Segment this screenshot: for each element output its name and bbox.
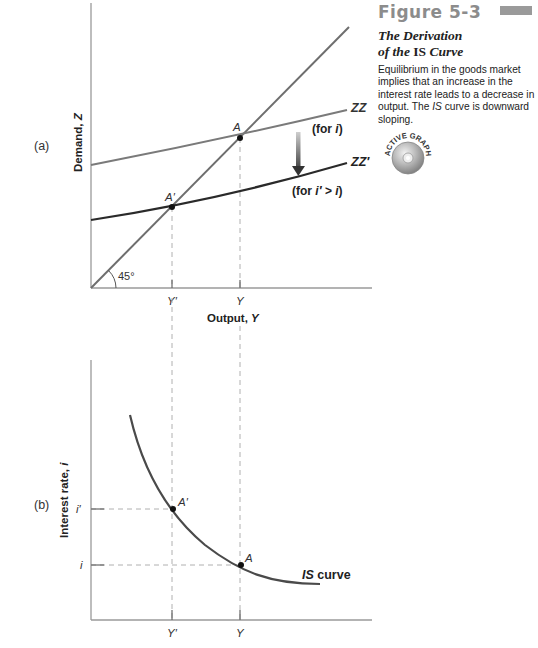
point-a-prime [169,204,175,210]
panel-a-label: (a) [34,139,49,153]
y-tick-iprime: i′ [76,503,82,515]
point-a-b-label: A [244,552,253,564]
figure-tab-decoration [500,6,532,15]
zz-curve [91,110,347,165]
x-tick-yprime-b: Y′ [167,627,178,639]
panel-a: 45° A A′ ZZ ZZ′ (for i) (for i′ > i) (a)… [34,3,372,324]
is-curve [130,415,320,584]
point-a-prime-label: A′ [164,191,176,203]
caption-em: IS [432,101,442,112]
point-a-prime-b-label: A′ [177,496,189,508]
figure-title-line2-pre: of the [378,44,413,59]
panel-b-label: (b) [34,498,49,512]
figure-title-line2-post: Curve [426,44,463,59]
figure-title-roman: IS [413,44,426,59]
point-a [237,135,243,141]
figure-caption: Equilibrium in the goods market implies … [378,64,536,126]
angle-label: 45° [118,270,135,282]
shift-arrow-shaft [296,132,301,168]
zz-prime-label: ZZ′ [350,155,370,169]
figure-title-line1: The Derivation [378,28,462,43]
for-i-label: (for i) [312,122,343,136]
for-i-prime-label: (for i′ > i) [292,184,343,198]
figure-title: The Derivation of the IS Curve [378,28,538,60]
figure-number: Figure 5-3 [378,2,481,22]
point-a-prime-b [170,506,176,512]
x-tick-y-a: Y [236,295,245,307]
zz-label: ZZ [350,101,368,115]
active-graph-badge-icon[interactable]: ACTIVE GRAPH [382,126,434,178]
panel-b: A′ A IS curve (b) Interest rate, i i′ i … [34,360,372,639]
point-a-label: A [232,121,241,133]
y-tick-i: i [80,559,83,571]
panel-a-x-label: Output, Y [207,312,260,324]
panel-a-y-label: Demand, Z [72,112,84,172]
angle-arc [109,271,117,289]
point-a-b [238,562,244,568]
x-tick-y-b: Y [236,627,245,639]
panel-b-y-label: Interest rate, i [58,462,70,538]
is-curve-label: IS curve [302,568,351,582]
